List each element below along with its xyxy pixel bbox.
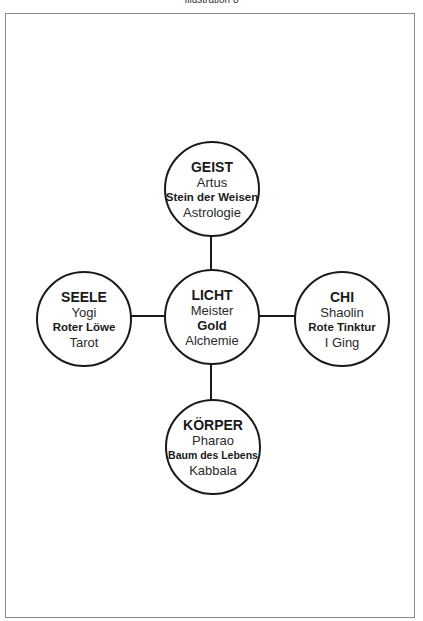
node-title: KÖRPER [183, 417, 243, 433]
node-koerper: KÖRPER Pharao Baum des Lebens Kabbala [165, 399, 261, 495]
node-chi: CHI Shaolin Rote Tinktur I Ging [294, 271, 390, 367]
edge-center-right [257, 315, 295, 317]
node-line: Alchemie [185, 333, 238, 348]
node-title: CHI [330, 289, 354, 305]
edge-center-left [130, 315, 165, 317]
node-line: Tarot [70, 335, 99, 350]
node-line: Pharao [192, 433, 234, 448]
node-line: Astrologie [183, 205, 241, 220]
edge-center-bottom [210, 365, 212, 400]
node-line: Shaolin [320, 305, 363, 320]
node-line-bold: Stein der Weisen [166, 190, 258, 205]
node-line: Meister [191, 303, 234, 318]
node-line-bold: Roter Löwe [53, 320, 116, 335]
node-line: I Ging [325, 335, 360, 350]
page-title: Illustration 8 [0, 0, 423, 5]
node-title: LICHT [191, 287, 232, 303]
node-line-bold: Gold [197, 318, 227, 333]
node-seele: SEELE Yogi Roter Löwe Tarot [36, 271, 132, 367]
node-line: Artus [197, 175, 227, 190]
node-title: GEIST [191, 159, 233, 175]
node-title: SEELE [61, 289, 107, 305]
node-line-bold: Rote Tinktur [308, 320, 376, 335]
node-line: Yogi [72, 305, 97, 320]
edge-center-top [210, 236, 212, 269]
node-geist: GEIST Artus Stein der Weisen Astrologie [164, 141, 260, 237]
node-line: Kabbala [189, 463, 237, 478]
node-licht: LICHT Meister Gold Alchemie [164, 269, 260, 365]
node-line-bold: Baum des Lebens [168, 448, 258, 463]
